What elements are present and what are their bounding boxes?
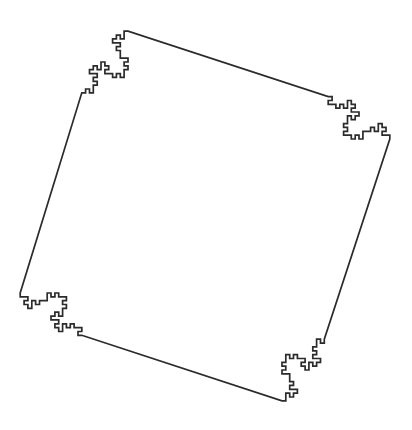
figure-canvas xyxy=(0,0,412,430)
figure-background xyxy=(0,0,412,430)
fractal-figure xyxy=(0,0,412,430)
